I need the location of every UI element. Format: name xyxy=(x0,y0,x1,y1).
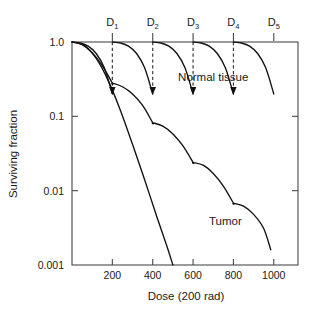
x-tick-label: 200 xyxy=(104,269,122,281)
y-axis-title: Surviving fraction xyxy=(7,110,19,198)
series-annotation-label: Tumor xyxy=(209,215,242,227)
survival-curve-figure: 2004006008001000 1.00.10.010.001 D1D2D3D… xyxy=(0,0,316,310)
x-tick-label: 1000 xyxy=(262,269,286,281)
x-tick-label: 800 xyxy=(225,269,243,281)
y-tick-label: 0.01 xyxy=(44,185,65,197)
x-axis-title: Dose (200 rad) xyxy=(148,290,225,302)
y-tick-label: 0.1 xyxy=(49,110,64,122)
x-tick-label: 600 xyxy=(184,269,202,281)
series-annotation-label: Normal tissue xyxy=(178,71,248,83)
x-tick-label: 400 xyxy=(144,269,162,281)
radiation-survival-chart: 2004006008001000 1.00.10.010.001 D1D2D3D… xyxy=(0,0,316,310)
y-tick-label: 1.0 xyxy=(49,36,64,48)
y-tick-label: 0.001 xyxy=(38,259,64,271)
